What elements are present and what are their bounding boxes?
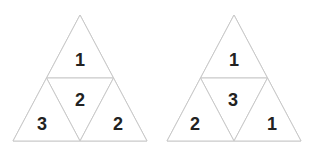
left-cell-middle-center-label: 2 [75, 90, 85, 110]
right-cell-top-label: 1 [229, 50, 239, 70]
left-triangle-figure: 1 2 3 2 [0, 0, 158, 159]
right-cell-bottom-left-label: 2 [190, 114, 200, 134]
left-cell-bottom-left-label: 3 [37, 114, 47, 134]
left-cell-top-label: 1 [75, 50, 85, 70]
diagram-canvas: 1 2 3 2 1 3 2 1 [0, 0, 316, 159]
right-cell-middle-center-label: 3 [228, 90, 238, 110]
right-cell-bottom-right-label: 1 [267, 114, 277, 134]
right-triangle-figure: 1 3 2 1 [158, 0, 316, 159]
left-cell-bottom-right-label: 2 [113, 114, 123, 134]
